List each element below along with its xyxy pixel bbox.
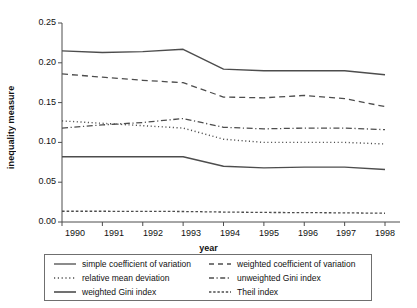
legend-key-dashed-icon <box>208 259 232 269</box>
legend-label-4: weighted Gini index <box>82 287 156 297</box>
legend-label-0: simple coefficient of variation <box>82 259 191 269</box>
legend-label-1: weighted coefficient of variation <box>237 259 355 269</box>
legend-key-solid-icon <box>53 259 77 269</box>
legend-item-theil-index: Theil index <box>208 287 278 297</box>
legend-item-weighted-coefficient-of-variation: weighted coefficient of variation <box>208 259 355 269</box>
series-line-5 <box>62 211 385 213</box>
series-line-1 <box>62 74 385 107</box>
legend-key-dotted-icon <box>53 273 77 283</box>
series-line-2 <box>62 121 385 144</box>
legend-key-solid-thick-icon <box>53 287 77 297</box>
legend: simple coefficient of variation relative… <box>44 254 372 301</box>
legend-item-simple-coefficient-of-variation: simple coefficient of variation <box>53 259 191 269</box>
axes <box>58 23 400 226</box>
series-line-0 <box>62 49 385 74</box>
legend-key-fine-dashed-icon <box>208 287 232 297</box>
legend-item-unweighted-gini-index: unweighted Gini index <box>208 273 321 283</box>
chart-figure: inequality measure year 0.25 0.20 0.15 0… <box>0 0 417 308</box>
series-line-4 <box>62 157 385 170</box>
legend-label-5: Theil index <box>237 287 278 297</box>
legend-item-relative-mean-deviation: relative mean deviation <box>53 273 169 283</box>
legend-label-3: unweighted Gini index <box>237 273 321 283</box>
legend-key-dash-dot-icon <box>208 273 232 283</box>
legend-label-2: relative mean deviation <box>82 273 169 283</box>
data-series-layer <box>62 49 385 213</box>
legend-item-weighted-gini-index: weighted Gini index <box>53 287 156 297</box>
